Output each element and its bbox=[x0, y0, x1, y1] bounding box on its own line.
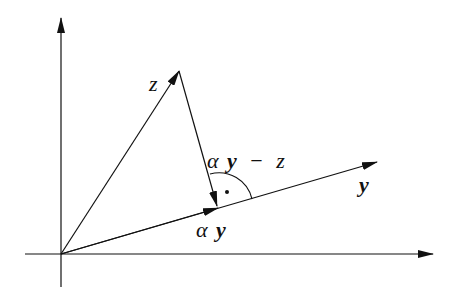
label-diff-alpha: α bbox=[207, 148, 219, 173]
vector-alpha-y-minus-z bbox=[179, 71, 217, 206]
label-diff-minus: − bbox=[250, 148, 262, 173]
label-alpha-y-alpha: α bbox=[196, 217, 208, 242]
right-angle-arc bbox=[210, 173, 252, 199]
vector-projection-diagram: z y α y α y − z bbox=[0, 0, 449, 296]
label-diff-y: y bbox=[224, 148, 237, 173]
label-alpha-y-y: y bbox=[213, 217, 226, 242]
vector-z bbox=[61, 71, 179, 254]
label-alpha-y-minus-z: α y − z bbox=[207, 148, 285, 173]
label-alpha-y: α y bbox=[196, 217, 226, 242]
label-diff-z: z bbox=[275, 148, 285, 173]
label-y: y bbox=[356, 172, 369, 197]
right-angle-dot bbox=[225, 190, 229, 194]
vector-alpha-y bbox=[61, 208, 218, 254]
label-z: z bbox=[148, 71, 158, 96]
